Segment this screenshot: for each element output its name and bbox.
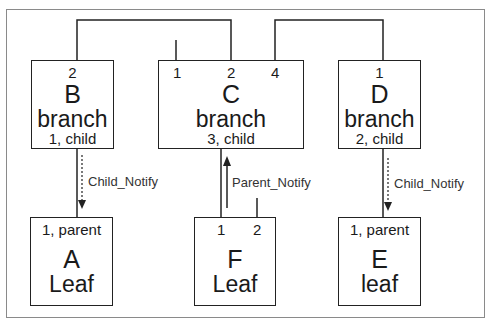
port-label: 1 [217,221,225,238]
node-letter: D [339,80,420,109]
node-e-leaf: 1, parent E leaf [338,217,421,306]
port-label: 2 [253,221,261,238]
port-label: 1 [339,64,420,81]
node-role: 1, child [32,130,113,147]
node-role: 1, parent [31,221,112,238]
arrowhead-down-right [384,202,392,211]
link-b-c [77,20,231,60]
node-letter: B [32,80,113,109]
arrowhead-down-left [78,200,86,209]
edge-label-child-notify-left: Child_Notify [88,174,158,189]
node-role: 2, child [339,130,420,147]
port-label: 2 [32,64,113,81]
node-kind: leaf [339,271,420,298]
node-letter: E [339,245,420,274]
node-letter: C [159,80,303,109]
node-kind: branch [339,106,420,133]
port-label: 2 [227,64,235,81]
node-role: 3, child [159,130,303,147]
node-b-branch: 2 B branch 1, child [31,60,114,149]
link-c-d [275,20,383,60]
edge-label-child-notify-right: Child_Notify [394,176,464,191]
node-a-leaf: 1, parent A Leaf [30,217,113,306]
node-kind: Leaf [31,271,112,298]
node-f-leaf: 1 2 F Leaf [194,217,276,306]
node-kind: branch [32,106,113,133]
arrowhead-up [223,156,231,166]
node-kind: Leaf [195,271,275,298]
port-label: 4 [271,64,279,81]
edge-label-parent-notify: Parent_Notify [232,175,311,190]
node-c-branch: 1 2 4 C branch 3, child [158,60,304,149]
node-kind: branch [159,106,303,133]
port-label: 1 [173,64,181,81]
node-role: 1, parent [339,221,420,238]
node-d-branch: 1 D branch 2, child [338,60,421,149]
node-letter: F [195,245,275,274]
node-letter: A [31,245,112,274]
